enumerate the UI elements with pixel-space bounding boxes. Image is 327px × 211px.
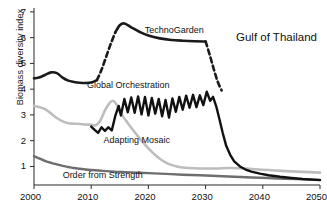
y-tick-4: 4 [12,83,26,94]
y-tick-1: 1 [12,160,26,171]
x-tick-2040: 2040 [249,191,270,202]
chart-title: Gulf of Thailand [236,31,317,43]
series-label-adapting-mosaic: Adapting Mosaic [103,135,170,145]
x-tick-2020: 2020 [134,191,155,202]
y-tick-3: 3 [12,109,26,120]
y-tick-5: 5 [12,57,26,68]
y-tick-7: 7 [12,6,26,17]
y-tick-2: 2 [12,135,26,146]
x-tick-2000: 2000 [20,191,41,202]
series-label-global-orchestration: Global Orchestration [87,80,170,90]
series-label-order-from-strength: Order from Strength [63,170,143,180]
y-tick-6: 6 [12,32,26,43]
x-tick-2050: 2050 [306,191,327,202]
x-tick-2010: 2010 [77,191,98,202]
series-label-technogarden: TechnoGarden [145,25,204,35]
x-tick-2030: 2030 [192,191,213,202]
